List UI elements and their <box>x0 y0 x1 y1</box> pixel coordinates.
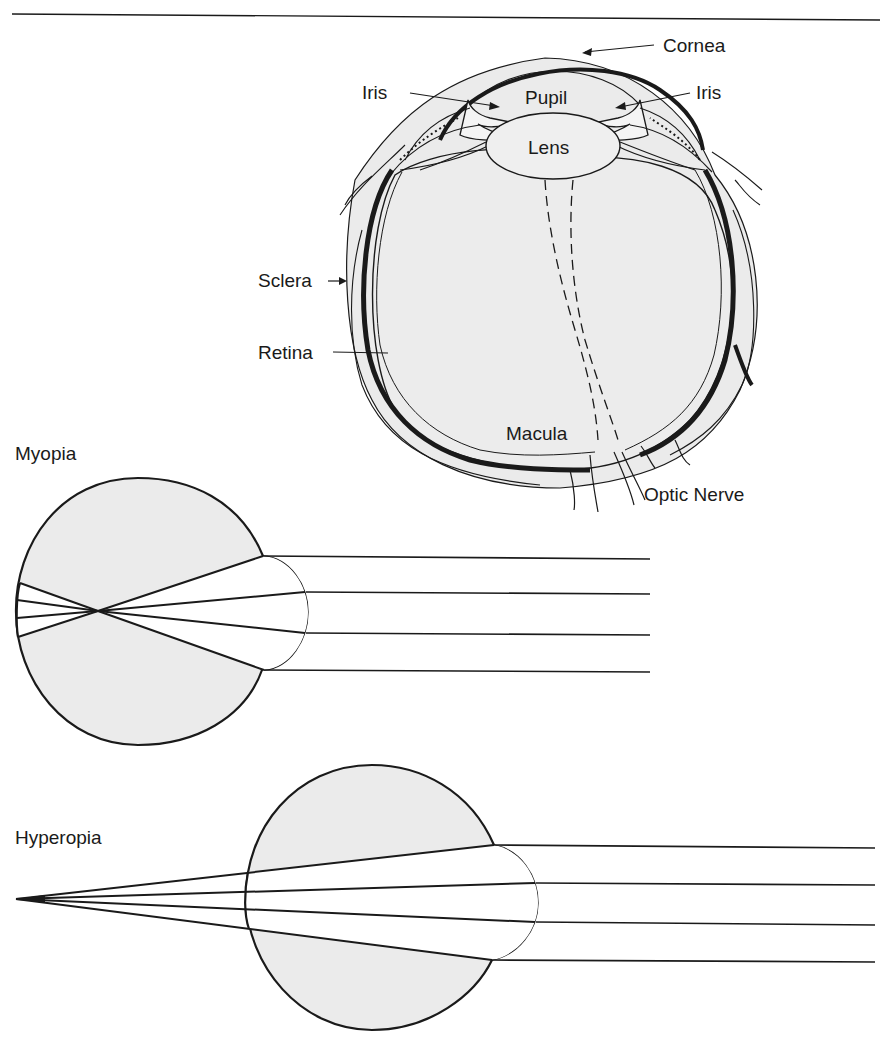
label-lens: Lens <box>528 137 569 158</box>
header-rule <box>12 14 880 20</box>
label-iris-right: Iris <box>696 82 721 103</box>
hyperopia-incoming-rays <box>492 845 875 962</box>
sclera-arrowhead <box>339 277 347 285</box>
label-cornea: Cornea <box>663 35 726 56</box>
label-pupil: Pupil <box>525 87 567 108</box>
label-macula: Macula <box>506 423 568 444</box>
eye-anatomy-diagram: Cornea Iris Iris Pupil Lens Sclera Retin… <box>258 35 762 512</box>
myopia-title: Myopia <box>15 443 77 464</box>
eye-diagram-figure: Cornea Iris Iris Pupil Lens Sclera Retin… <box>0 0 892 1041</box>
hyperopia-title: Hyperopia <box>15 827 102 848</box>
cornea-arrowhead <box>582 48 592 56</box>
label-iris-left: Iris <box>362 82 387 103</box>
label-sclera: Sclera <box>258 270 312 291</box>
hyperopia-diagram: Hyperopia <box>15 765 875 1030</box>
cornea-pointer <box>585 45 654 52</box>
label-optic-nerve: Optic Nerve <box>644 484 744 505</box>
myopia-incoming-rays <box>263 556 650 672</box>
label-retina: Retina <box>258 342 313 363</box>
